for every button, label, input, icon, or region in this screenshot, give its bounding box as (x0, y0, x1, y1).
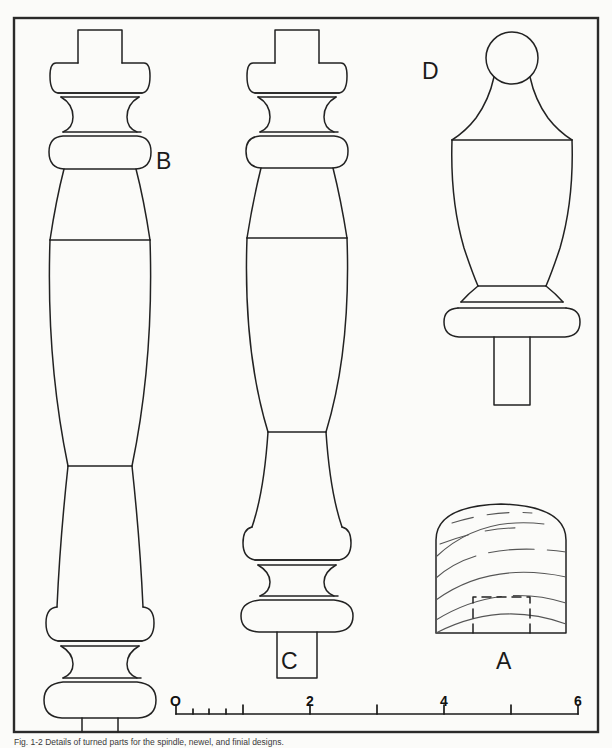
technical-drawing-plate (0, 0, 612, 748)
scale-label-6: 6 (574, 694, 582, 708)
scale-label-2: 2 (306, 694, 314, 708)
label-d: D (422, 60, 439, 83)
page-background (0, 0, 612, 748)
figure-caption: Fig. 1-2 Details of turned parts for the… (14, 737, 594, 747)
label-b: B (156, 150, 172, 173)
label-a: A (496, 650, 512, 673)
scale-label-4: 4 (440, 694, 448, 708)
label-c: C (281, 650, 298, 673)
scale-label-0: O (170, 694, 181, 708)
